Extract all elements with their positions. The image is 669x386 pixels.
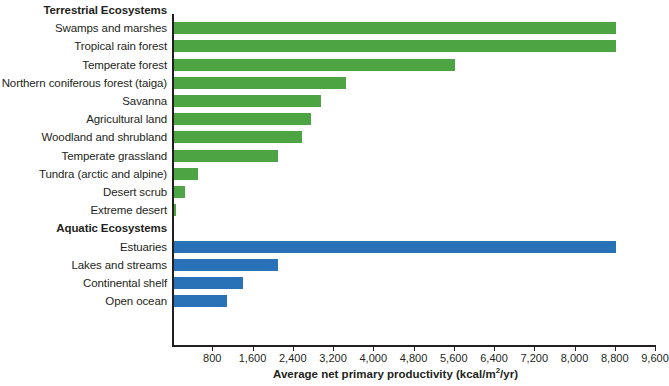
bar-terrestrial (173, 186, 185, 198)
bar-aquatic (173, 295, 227, 307)
category-label: Swamps and marshes (55, 19, 173, 37)
y-axis-line (172, 14, 174, 346)
x-tick (414, 346, 415, 351)
section-heading-row: Terrestrial Ecosystems (0, 1, 667, 19)
category-label: Desert scrub (103, 183, 173, 201)
bar-terrestrial (173, 131, 302, 143)
chart-row: Tropical rain forest (0, 37, 667, 55)
x-tick-label: 9,600 (641, 352, 669, 364)
category-label: Tropical rain forest (74, 37, 173, 55)
x-axis-title-tail: /yr) (500, 368, 518, 380)
x-tick-label: 7,200 (520, 352, 548, 364)
bar-terrestrial (173, 113, 311, 125)
bar-terrestrial (173, 150, 278, 162)
x-tick (655, 346, 656, 351)
x-tick (534, 346, 535, 351)
chart-row: Tundra (arctic and alpine) (0, 165, 667, 183)
section-heading-row: Aquatic Ecosystems (0, 219, 667, 237)
x-tick-label: 1,600 (239, 352, 267, 364)
x-tick (615, 346, 616, 351)
chart-row: Agricultural land (0, 110, 667, 128)
chart-row: Temperate grassland (0, 147, 667, 165)
x-tick (454, 346, 455, 351)
category-label: Savanna (122, 92, 173, 110)
category-label: Northern coniferous forest (taiga) (2, 74, 173, 92)
category-label: Extreme desert (90, 201, 173, 219)
chart-row: Extreme desert (0, 201, 667, 219)
bar-terrestrial (173, 22, 616, 34)
x-tick-label: 4,000 (359, 352, 387, 364)
x-tick-label: 4,800 (400, 352, 428, 364)
category-label: Temperate grassland (62, 147, 174, 165)
bar-terrestrial (173, 95, 321, 107)
x-tick (373, 346, 374, 351)
x-tick-label: 5,600 (440, 352, 468, 364)
x-tick (253, 346, 254, 351)
bar-terrestrial (173, 77, 346, 89)
bar-terrestrial (173, 59, 455, 71)
x-tick (333, 346, 334, 351)
category-label: Open ocean (105, 292, 173, 310)
x-tick-label: 6,400 (480, 352, 508, 364)
chart-row: Savanna (0, 92, 667, 110)
chart-row: Desert scrub (0, 183, 667, 201)
chart-row: Continental shelf (0, 274, 667, 292)
x-tick-label: 3,200 (319, 352, 347, 364)
chart-row: Woodland and shrubland (0, 128, 667, 146)
bar-aquatic (173, 277, 243, 289)
x-tick-label: 8,000 (561, 352, 589, 364)
chart-row: Swamps and marshes (0, 19, 667, 37)
x-axis-title-text: Average net primary productivity (kcal/m (273, 368, 496, 380)
chart-row: Open ocean (0, 292, 667, 310)
chart-row: Estuaries (0, 238, 667, 256)
x-tick-label: 2,400 (279, 352, 307, 364)
category-label: Estuaries (120, 238, 173, 256)
category-label: Lakes and streams (72, 256, 173, 274)
x-tick-label: 8,800 (601, 352, 629, 364)
x-tick (212, 346, 213, 351)
chart-row: Northern coniferous forest (taiga) (0, 74, 667, 92)
section-heading-label: Terrestrial Ecosystems (43, 1, 173, 19)
category-label: Woodland and shrubland (42, 128, 173, 146)
chart-row: Temperate forest (0, 56, 667, 74)
x-tick (494, 346, 495, 351)
bar-aquatic (173, 259, 278, 271)
category-label: Temperate forest (82, 56, 173, 74)
x-tick-label: 800 (203, 352, 221, 364)
x-tick (575, 346, 576, 351)
bar-terrestrial (173, 40, 616, 52)
x-axis-title: Average net primary productivity (kcal/m… (0, 366, 667, 380)
category-label: Tundra (arctic and alpine) (39, 165, 173, 183)
bar-terrestrial (173, 168, 198, 180)
x-tick (293, 346, 294, 351)
bar-aquatic (173, 241, 616, 253)
category-label: Continental shelf (83, 274, 173, 292)
chart-row: Lakes and streams (0, 256, 667, 274)
section-heading-label: Aquatic Ecosystems (56, 219, 173, 237)
category-label: Agricultural land (86, 110, 173, 128)
